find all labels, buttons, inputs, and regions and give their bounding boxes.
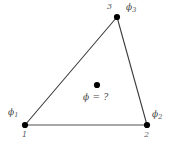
triangle-edge-1-3 (25, 17, 117, 125)
interior-point-label: ϕ = ? (83, 93, 109, 102)
interior-point-marker (94, 82, 100, 88)
node-marker-3 (114, 14, 120, 20)
nodal-value-label-2: ϕ2 (152, 110, 162, 119)
nodal-value-label-1: ϕ1 (8, 108, 18, 117)
node-number-3: 3 (107, 3, 112, 11)
node-number-1: 1 (22, 131, 27, 139)
nodal-value-label-3: ϕ3 (126, 3, 136, 12)
node-marker-1 (22, 122, 28, 128)
node-number-2: 2 (144, 131, 149, 139)
node-marker-2 (144, 122, 150, 128)
figure-canvas (0, 0, 173, 148)
triangle-edge-3-2 (117, 17, 147, 125)
triangle-interpolation-figure: 1 2 3 ϕ1 ϕ2 ϕ3 ϕ = ? (0, 0, 173, 148)
phi-subscript-3: 3 (132, 6, 136, 14)
phi-subscript-1: 1 (14, 111, 18, 119)
phi-subscript-2: 2 (158, 113, 162, 121)
